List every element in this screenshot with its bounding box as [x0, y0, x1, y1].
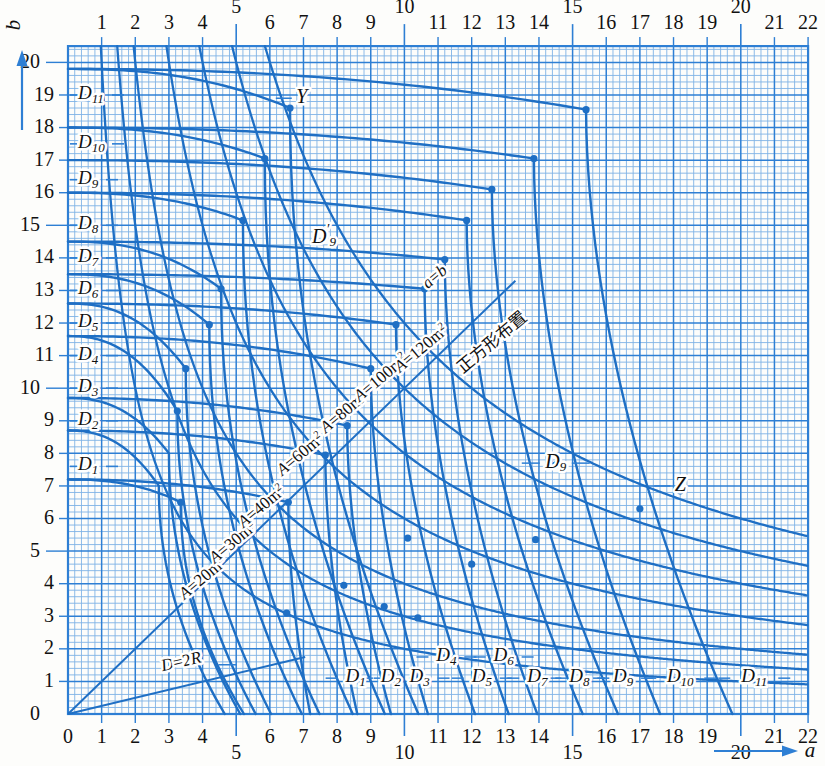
data-point	[530, 155, 537, 162]
x-tick-label-top: 21	[764, 11, 784, 33]
x-tick-label-top: 17	[630, 11, 650, 33]
data-point	[217, 285, 224, 292]
area-label-120: A=120m2	[389, 319, 452, 377]
x-tick-label: 16	[596, 725, 616, 747]
y-tick-label: 2	[44, 636, 54, 658]
x-tick-label-top: 8	[332, 11, 342, 33]
left-label-D5: D5	[77, 310, 99, 334]
data-point	[261, 155, 268, 162]
data-point	[174, 407, 181, 414]
x-tick-label-top: 13	[495, 11, 515, 33]
x-axis-label: a	[805, 738, 816, 762]
x-tick-label-top: 18	[664, 11, 684, 33]
y-tick-label: 13	[34, 278, 54, 300]
x-tick-label-top: 22	[798, 11, 818, 33]
x-tick-label: 2	[130, 725, 140, 747]
y-tick-label: 1	[44, 669, 54, 691]
x-tick-label-top: 16	[596, 11, 616, 33]
y-tick-label: 9	[44, 408, 54, 430]
x-tick-label: 10	[394, 741, 414, 763]
data-point	[322, 451, 329, 458]
left-label-D3: D3	[77, 376, 99, 400]
bottom-label-D6: D6	[493, 644, 515, 668]
y-axis-label: b	[1, 20, 25, 31]
data-point	[636, 505, 643, 512]
data-point	[392, 321, 399, 328]
x-tick-label: 3	[164, 725, 174, 747]
y-tick-label: 19	[34, 83, 54, 105]
data-point	[381, 603, 388, 610]
x-tick-label: 17	[630, 725, 650, 747]
x-tick-label-top: 6	[265, 11, 275, 33]
x-tick-label-top: 4	[198, 11, 208, 33]
y-tick-label: 8	[44, 441, 54, 463]
x-tick-label: 1	[97, 725, 107, 747]
nomogram-figure: 123456789101112131415161718192021220 123…	[0, 0, 825, 766]
x-tick-label-zero: 0	[63, 725, 73, 747]
x-tick-label: 4	[198, 725, 208, 747]
left-label-D7: D7	[77, 245, 99, 269]
data-point	[414, 614, 421, 621]
x-tick-label: 11	[428, 725, 447, 747]
x-tick-label-top: 10	[394, 0, 414, 17]
y-tick-label: 11	[35, 343, 54, 365]
data-point	[404, 534, 411, 541]
x-tick-label-top: 2	[130, 11, 140, 33]
x-axis-arrow-head	[782, 746, 798, 757]
data-point	[463, 217, 470, 224]
x-tick-label-top: 9	[366, 11, 376, 33]
bottom-label-D9: D9	[612, 666, 634, 690]
x-tick-label: 7	[298, 725, 308, 747]
bottom-label-D3: D3	[408, 666, 430, 690]
x-tick-label: 8	[332, 725, 342, 747]
y-tick-label: 14	[34, 245, 54, 267]
bottom-label-D11: D11	[740, 666, 767, 690]
x-tick-label-top: 14	[529, 11, 549, 33]
x-tick-label-top: 7	[298, 11, 308, 33]
x-tick-label: 5	[231, 741, 241, 763]
y-tick-label: 0	[30, 702, 40, 724]
left-label-D11: D11	[77, 82, 104, 106]
data-point	[285, 499, 292, 506]
y-tick-label: 18	[34, 115, 54, 137]
y-tick-label: 3	[44, 604, 54, 626]
left-label-D9: D9	[77, 167, 99, 191]
nomogram-svg: 123456789101112131415161718192021220 123…	[0, 0, 825, 766]
y-tick-label: 6	[44, 506, 54, 528]
x-tick-label-top: 1	[97, 11, 107, 33]
x-tick-label-top: 15	[563, 0, 583, 17]
y-tick-label: 7	[44, 474, 54, 496]
data-point	[239, 217, 246, 224]
x-tick-label: 18	[664, 725, 684, 747]
x-tick-label: 9	[366, 725, 376, 747]
data-point	[286, 104, 293, 111]
bottom-label-D5: D5	[471, 666, 493, 690]
y-tick-label: 5	[30, 539, 40, 561]
x-tick-label-top: 20	[731, 0, 751, 17]
data-point	[582, 106, 589, 113]
data-point	[532, 536, 539, 543]
x-tick-label: 15	[563, 741, 583, 763]
left-label-D2: D2	[77, 408, 99, 432]
x-tick-label-top: 19	[697, 11, 717, 33]
data-point	[441, 256, 448, 263]
x-axis-tick-labels: 123456789101112131415161718192021220	[63, 725, 818, 763]
annotation-d-equals-2r: D=2R	[158, 647, 204, 675]
x-tick-label: 12	[462, 725, 482, 747]
annotation-d9-prime: D′9	[311, 223, 337, 250]
x-tick-label-top: 11	[428, 11, 447, 33]
y-tick-label: 15	[20, 213, 40, 235]
data-point	[206, 321, 213, 328]
x-tick-label: 21	[764, 725, 784, 747]
bottom-label-D8: D8	[568, 666, 590, 690]
data-point	[182, 365, 189, 372]
y-tick-label: 12	[34, 311, 54, 333]
x-tick-label-top: 12	[462, 11, 482, 33]
bottom-label-D4: D4	[435, 644, 457, 668]
annotation-Y: Y	[296, 85, 309, 107]
x-tick-label: 13	[495, 725, 515, 747]
y-tick-label: 10	[20, 376, 40, 398]
left-label-D8: D8	[77, 213, 99, 237]
left-label-D4: D4	[77, 343, 99, 367]
data-point	[177, 499, 184, 506]
